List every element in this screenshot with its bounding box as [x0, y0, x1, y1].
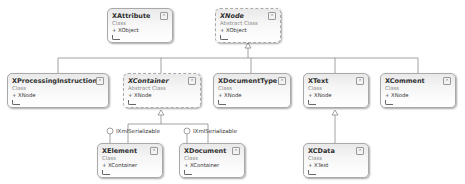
class-kind: Class	[385, 85, 451, 92]
class-xdocument[interactable]: XDocument Class + XContainer ⌃	[179, 143, 245, 178]
expand-members-icon[interactable]	[102, 170, 110, 175]
class-name: XComment	[385, 77, 451, 85]
base-class: + XObject	[112, 27, 168, 34]
expand-members-icon[interactable]	[220, 35, 228, 40]
expand-members-icon[interactable]	[128, 100, 136, 105]
base-class: + XText	[308, 162, 364, 169]
class-xprocessinginstruction[interactable]: XProcessingInstruction Class + XNode ⌃	[7, 73, 109, 108]
class-kind: Abstract Class	[128, 85, 196, 92]
class-kind: Class	[184, 155, 240, 162]
base-class: + XObject	[220, 27, 276, 34]
expand-members-icon[interactable]	[184, 170, 192, 175]
class-xcontainer[interactable]: XContainer Abstract Class + XNode ⌃	[123, 73, 201, 108]
expand-members-icon[interactable]	[308, 100, 316, 105]
interface-label-ixmlserializable: IXmlSerializable	[116, 128, 160, 134]
class-xnode[interactable]: XNode Abstract Class + XObject ⌃	[215, 8, 281, 43]
base-class: + XContainer	[184, 162, 240, 169]
collapse-toggle-icon[interactable]: ⌃	[232, 147, 240, 155]
collapse-toggle-icon[interactable]: ⌃	[188, 77, 196, 85]
interface-label-ixmlserializable: IXmlSerializable	[193, 128, 237, 134]
base-class: + XContainer	[102, 162, 158, 169]
expand-members-icon[interactable]	[308, 170, 316, 175]
class-name: XContainer	[128, 77, 196, 85]
class-xdocumenttype[interactable]: XDocumentType Class + XNode ⌃	[213, 73, 291, 108]
class-xelement[interactable]: XElement Class + XContainer ⌃	[97, 143, 163, 178]
expand-members-icon[interactable]	[12, 100, 20, 105]
collapse-toggle-icon[interactable]: ⌃	[150, 147, 158, 155]
collapse-toggle-icon[interactable]: ⌃	[443, 77, 451, 85]
base-class: + XNode	[12, 92, 104, 99]
class-xtext[interactable]: XText Class + XNode ⌃	[303, 73, 369, 108]
expand-members-icon[interactable]	[112, 35, 120, 40]
class-xcdata[interactable]: XCData Class + XText ⌃	[303, 143, 369, 178]
collapse-toggle-icon[interactable]: ⌃	[356, 77, 364, 85]
base-class: + XNode	[308, 92, 364, 99]
base-class: + XNode	[128, 92, 196, 99]
class-diagram-canvas: XAttribute Class + XObject ⌃ XNode Abstr…	[0, 0, 465, 184]
collapse-toggle-icon[interactable]: ⌃	[160, 12, 168, 20]
class-kind: Class	[308, 155, 364, 162]
collapse-toggle-icon[interactable]: ⌃	[268, 12, 276, 20]
collapse-toggle-icon[interactable]: ⌃	[356, 147, 364, 155]
collapse-toggle-icon[interactable]: ⌃	[96, 77, 104, 85]
class-xcomment[interactable]: XComment Class + XNode ⌃	[380, 73, 456, 108]
base-class: + XNode	[218, 92, 286, 99]
class-kind: Class	[12, 85, 104, 92]
class-name: XDocumentType	[218, 77, 286, 85]
expand-members-icon[interactable]	[218, 100, 226, 105]
class-kind: Class	[102, 155, 158, 162]
class-kind: Class	[308, 85, 364, 92]
base-class: + XNode	[385, 92, 451, 99]
class-kind: Abstract Class	[220, 20, 276, 27]
class-name: XProcessingInstruction	[12, 77, 104, 85]
class-kind: Class	[112, 20, 168, 27]
class-xattribute[interactable]: XAttribute Class + XObject ⌃	[107, 8, 173, 43]
collapse-toggle-icon[interactable]: ⌃	[278, 77, 286, 85]
class-kind: Class	[218, 85, 286, 92]
expand-members-icon[interactable]	[385, 100, 393, 105]
